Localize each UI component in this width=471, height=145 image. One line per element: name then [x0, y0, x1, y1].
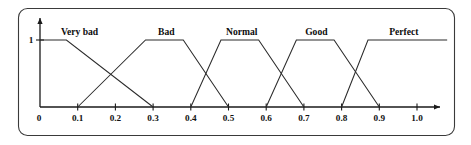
membership-curve-normal [191, 40, 304, 107]
x-axis-tick-label-0.6: 0.6 [260, 113, 272, 123]
membership-curve-perfect [342, 40, 448, 107]
x-axis-arrow-icon [434, 104, 440, 109]
x-axis-tick-label-0.7: 0.7 [298, 113, 310, 123]
set-label-very-bad: Very bad [61, 26, 99, 37]
x-axis-tick-label-1.0: 1.0 [411, 113, 423, 123]
membership-curve-very-bad [40, 40, 153, 107]
x-axis-tick-label-0.1: 0.1 [72, 113, 84, 123]
fuzzy-membership-figure: 100.10.20.30.40.50.60.70.80.91.0Very bad… [0, 0, 471, 145]
set-label-good: Good [305, 26, 328, 37]
plot-area: 100.10.20.30.40.50.60.70.80.91.0Very bad… [29, 18, 447, 123]
x-axis-tick-label-0.2: 0.2 [110, 113, 122, 123]
x-axis-tick-label-0.9: 0.9 [374, 113, 386, 123]
y-axis-arrow-icon [37, 18, 42, 24]
x-axis-tick-label-0.3: 0.3 [147, 113, 159, 123]
set-label-perfect: Perfect [389, 26, 419, 37]
x-axis-tick-label-0.5: 0.5 [223, 113, 235, 123]
membership-curve-good [266, 40, 379, 107]
x-axis-tick-label-0.8: 0.8 [336, 113, 348, 123]
set-label-normal: Normal [226, 26, 258, 37]
set-label-bad: Bad [158, 26, 175, 37]
x-axis-tick-label-0.4: 0.4 [185, 113, 197, 123]
x-axis-origin-label: 0 [37, 113, 42, 123]
membership-chart-svg: 100.10.20.30.40.50.60.70.80.91.0Very bad… [0, 0, 471, 145]
y-axis-tick-label-1: 1 [29, 35, 34, 45]
